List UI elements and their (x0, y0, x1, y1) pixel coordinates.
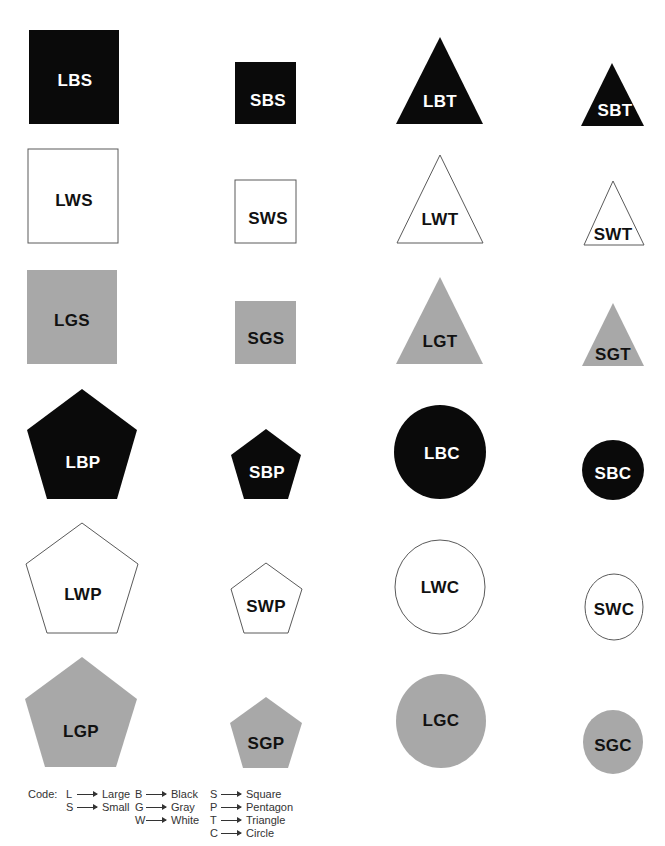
arrow-right-icon (146, 794, 166, 795)
arrow-right-icon (146, 807, 166, 808)
shape-label: LBT (423, 92, 457, 111)
legend-meaning: Pentagon (246, 801, 293, 814)
arrow-right-icon (146, 820, 166, 821)
shape-label: LBP (66, 453, 101, 472)
shape-sgc: SGC (583, 710, 643, 774)
poly-body (26, 523, 138, 633)
arrow-right-icon (221, 807, 241, 808)
shape-label: SWT (594, 225, 633, 244)
shape-label: SBT (598, 101, 633, 120)
poly-body (396, 277, 483, 364)
shape-lgp: LGP (25, 657, 137, 767)
shape-label: SBS (250, 91, 286, 110)
poly-body (25, 657, 137, 767)
legend-meaning: Square (246, 788, 281, 801)
shape-swp: SWP (231, 563, 302, 633)
legend-meaning: White (171, 814, 199, 827)
legend-meaning: Small (102, 801, 130, 814)
shape-label: LBC (424, 444, 460, 463)
shape-label: LGS (54, 311, 90, 330)
shape-label: SWC (594, 600, 635, 619)
shape-lbp: LBP (27, 389, 137, 499)
arrow-right-icon (77, 807, 97, 808)
legend-title: Code: (28, 788, 57, 800)
legend-meaning: Circle (246, 827, 274, 840)
shape-grid: LBSSBSLBTSBTLWSSWSLWTSWTLGSSGSLGTSGTLBPS… (0, 0, 665, 846)
shape-label: SWS (248, 209, 288, 228)
shape-label: SGS (248, 329, 285, 348)
shape-sbp: SBP (231, 429, 301, 499)
shape-swt: SWT (584, 181, 644, 245)
shape-label: LBS (58, 71, 93, 90)
shape-lwp: LWP (26, 523, 138, 633)
shape-label: LGC (423, 711, 460, 730)
shape-lwt: LWT (397, 155, 483, 243)
shape-label: SBC (595, 464, 632, 483)
shape-sbs: SBS (235, 62, 296, 124)
shape-sgp: SGP (230, 697, 302, 768)
shape-lbs: LBS (29, 30, 119, 124)
legend-meaning: Large (102, 788, 130, 801)
shape-label: SBP (249, 463, 285, 482)
shape-label: LGP (63, 722, 99, 741)
shape-lgt: LGT (396, 277, 483, 364)
shape-label: LWC (421, 578, 460, 597)
poly-body (397, 155, 483, 243)
shape-label: LWT (422, 210, 459, 229)
shape-label: LGT (423, 332, 458, 351)
shape-label: SGC (594, 736, 632, 755)
shape-lwc: LWC (395, 540, 485, 634)
shape-sbc: SBC (582, 440, 644, 500)
shape-lws: LWS (28, 149, 118, 243)
poly-body (396, 37, 483, 124)
shape-label: LWS (55, 191, 93, 210)
shape-sws: SWS (235, 180, 296, 243)
shape-sgt: SGT (582, 303, 644, 366)
shape-sbt: SBT (581, 63, 644, 126)
shape-swc: SWC (585, 574, 643, 640)
shape-lgc: LGC (396, 674, 486, 768)
shape-lbt: LBT (396, 37, 483, 124)
legend-meaning: Triangle (246, 814, 285, 827)
shape-sgs: SGS (235, 301, 296, 364)
legend-meaning: Black (171, 788, 198, 801)
arrow-right-icon (221, 833, 241, 834)
poly-body (230, 697, 302, 768)
legend-meaning: Gray (171, 801, 195, 814)
arrow-right-icon (77, 794, 97, 795)
shape-label: SGP (248, 734, 285, 753)
shape-label: LWP (64, 585, 102, 604)
shape-label: SWP (246, 597, 286, 616)
poly-body (27, 389, 137, 499)
arrow-right-icon (221, 820, 241, 821)
shape-label: SGT (595, 345, 631, 364)
shape-lbc: LBC (394, 405, 486, 499)
arrow-right-icon (221, 794, 241, 795)
shape-lgs: LGS (27, 270, 117, 364)
